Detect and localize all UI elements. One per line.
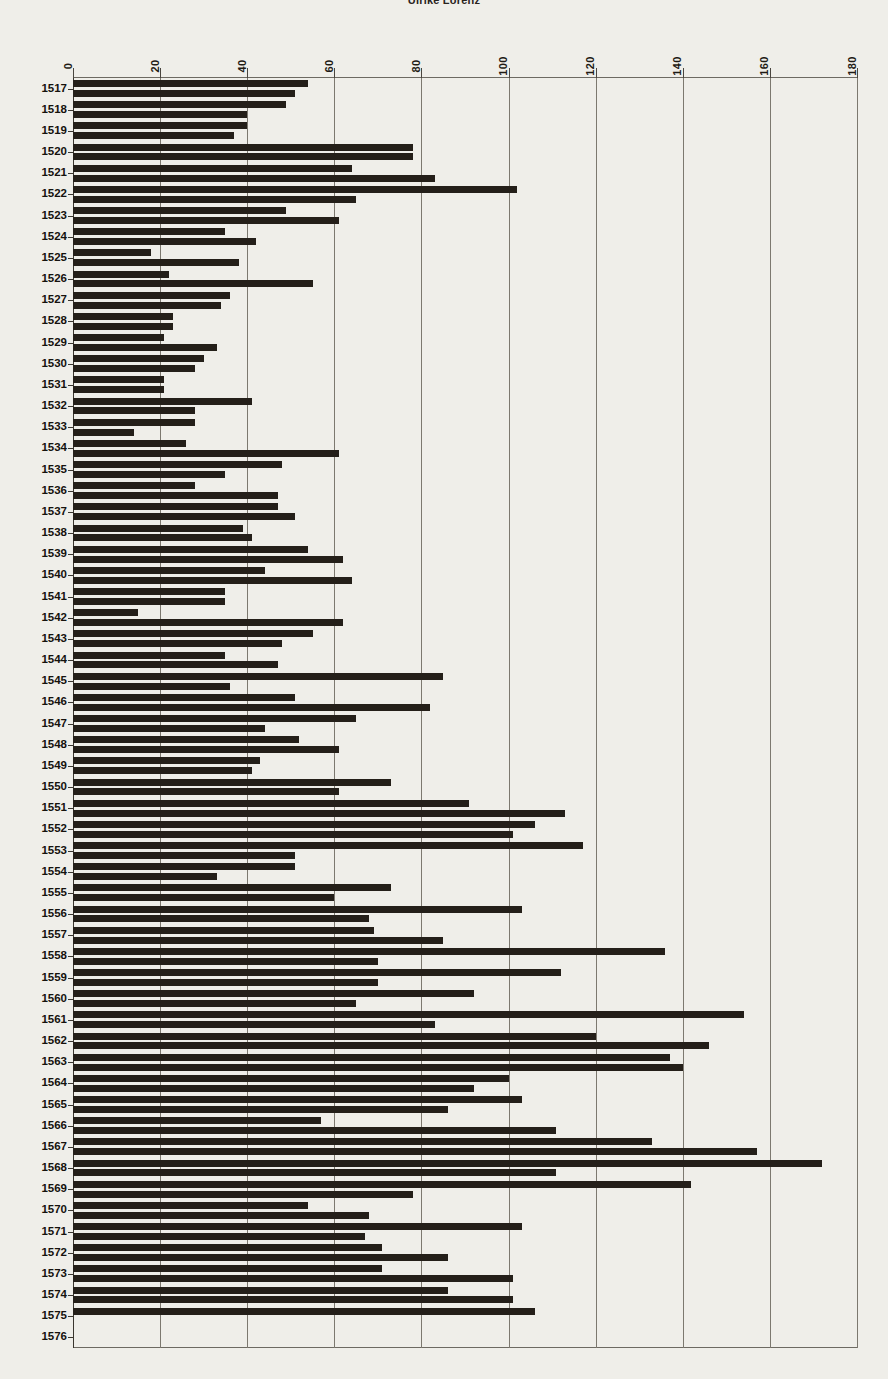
y-axis-label-1569: 1569	[41, 1183, 67, 1195]
bar-1559-b	[73, 979, 378, 986]
bar-1541-b	[73, 598, 225, 605]
x-tick-0	[73, 68, 74, 78]
plot-area: 1517151815191520152115221523152415251526…	[73, 78, 857, 1348]
bar-1563-b	[73, 1064, 683, 1071]
y-axis-label-1558: 1558	[41, 950, 67, 962]
bar-group: 1521	[73, 163, 857, 184]
bar-group: 1572	[73, 1242, 857, 1263]
bar-1546-b	[73, 704, 430, 711]
bar-1518-a	[73, 101, 286, 108]
bar-group: 1527	[73, 290, 857, 311]
y-axis-label-1519: 1519	[41, 125, 67, 137]
bar-1566-a	[73, 1117, 321, 1124]
y-axis-label-1531: 1531	[41, 379, 67, 391]
x-tick-label-60: 60	[334, 30, 335, 66]
bar-group: 1571	[73, 1221, 857, 1242]
bar-group: 1523	[73, 205, 857, 226]
y-axis-label-1574: 1574	[41, 1289, 67, 1301]
bar-1547-b	[73, 725, 265, 732]
bar-group: 1526	[73, 269, 857, 290]
bar-1561-a	[73, 1011, 744, 1018]
bar-1537-a	[73, 503, 278, 510]
y-axis-label-1576: 1576	[41, 1331, 67, 1343]
bar-group: 1555	[73, 882, 857, 903]
y-axis-label-1524: 1524	[41, 231, 67, 243]
bar-group: 1543	[73, 628, 857, 649]
bar-group: 1528	[73, 311, 857, 332]
bar-1571-b	[73, 1233, 365, 1240]
bar-1550-b	[73, 788, 339, 795]
bar-group: 1561	[73, 1009, 857, 1030]
y-axis-label-1564: 1564	[41, 1077, 67, 1089]
bar-group: 1538	[73, 523, 857, 544]
y-axis-label-1559: 1559	[41, 972, 67, 984]
bar-group: 1525	[73, 247, 857, 268]
y-axis-label-1573: 1573	[41, 1268, 67, 1280]
bar-1564-b	[73, 1085, 474, 1092]
bar-group: 1554	[73, 861, 857, 882]
bar-group: 1532	[73, 396, 857, 417]
bar-1552-a	[73, 821, 535, 828]
bar-1572-b	[73, 1254, 448, 1261]
bar-1527-a	[73, 292, 230, 299]
bar-1519-b	[73, 132, 234, 139]
bar-1544-b	[73, 661, 278, 668]
bar-1554-a	[73, 863, 295, 870]
bar-1542-a	[73, 609, 138, 616]
bar-group: 1535	[73, 459, 857, 480]
bar-1559-a	[73, 969, 561, 976]
bar-group: 1522	[73, 184, 857, 205]
y-axis-label-1571: 1571	[41, 1226, 67, 1238]
bar-1526-a	[73, 271, 169, 278]
bar-1530-a	[73, 355, 204, 362]
bar-1529-a	[73, 334, 164, 341]
x-tick-label-80: 80	[421, 30, 422, 66]
bar-1525-a	[73, 249, 151, 256]
bar-1524-a	[73, 228, 225, 235]
y-axis-label-1530: 1530	[41, 358, 67, 370]
bar-1553-b	[73, 852, 295, 859]
bar-group: 1563	[73, 1052, 857, 1073]
bar-1532-a	[73, 398, 252, 405]
y-axis-label-1555: 1555	[41, 887, 67, 899]
bar-group: 1565	[73, 1094, 857, 1115]
y-axis-label-1529: 1529	[41, 337, 67, 349]
y-tick	[68, 1337, 74, 1338]
bar-group: 1529	[73, 332, 857, 353]
bar-group: 1537	[73, 501, 857, 522]
bar-1574-b	[73, 1296, 513, 1303]
bar-1545-b	[73, 683, 230, 690]
y-axis-label-1517: 1517	[41, 83, 67, 95]
bar-group: 1544	[73, 650, 857, 671]
bar-1560-a	[73, 990, 474, 997]
y-axis-label-1560: 1560	[41, 993, 67, 1005]
bar-1540-a	[73, 567, 265, 574]
bar-1556-b	[73, 915, 369, 922]
bar-1525-b	[73, 259, 239, 266]
bar-group: 1573	[73, 1263, 857, 1284]
y-axis-label-1562: 1562	[41, 1035, 67, 1047]
y-axis-label-1551: 1551	[41, 802, 67, 814]
y-axis-label-1548: 1548	[41, 739, 67, 751]
y-axis-label-1542: 1542	[41, 612, 67, 624]
bar-1545-a	[73, 673, 443, 680]
bar-1527-b	[73, 302, 221, 309]
bar-1570-a	[73, 1202, 308, 1209]
x-tick-label-40: 40	[247, 30, 248, 66]
bar-group: 1559	[73, 967, 857, 988]
bar-1567-b	[73, 1148, 757, 1155]
bar-group: 1517	[73, 78, 857, 99]
bar-chart: Ulrike Lorenz 020406080100120140160180 1…	[0, 0, 888, 1379]
bar-group: 1541	[73, 586, 857, 607]
bar-1572-a	[73, 1244, 382, 1251]
bar-1533-a	[73, 419, 195, 426]
y-axis-label-1543: 1543	[41, 633, 67, 645]
bar-group: 1549	[73, 755, 857, 776]
x-tick-label-100: 100	[509, 30, 510, 66]
bar-1564-a	[73, 1075, 509, 1082]
bar-1529-b	[73, 344, 217, 351]
y-axis-label-1544: 1544	[41, 654, 67, 666]
y-axis-label-1570: 1570	[41, 1204, 67, 1216]
y-axis-label-1538: 1538	[41, 527, 67, 539]
bar-group: 1558	[73, 946, 857, 967]
